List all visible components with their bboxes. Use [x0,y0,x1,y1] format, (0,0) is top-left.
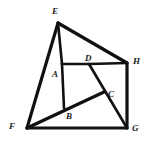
vertex-label-f: F [9,122,15,131]
edge-layer [27,23,127,128]
segment-a-b [62,64,64,108]
vertex-label-a: A [52,70,58,79]
segment-d-h [89,63,127,64]
geometry-canvas [0,0,147,146]
segment-e-h [58,23,127,63]
vertex-label-d: D [85,54,92,63]
vertex-label-c: C [108,90,114,99]
vertex-label-e: E [52,7,58,16]
segment-f-c [27,92,104,128]
geometry-figure: EHADCBFG [0,0,147,146]
vertex-label-b: B [66,112,72,121]
vertex-label-h: H [133,57,140,66]
segment-e-a [58,23,62,64]
vertex-label-g: G [132,124,139,133]
